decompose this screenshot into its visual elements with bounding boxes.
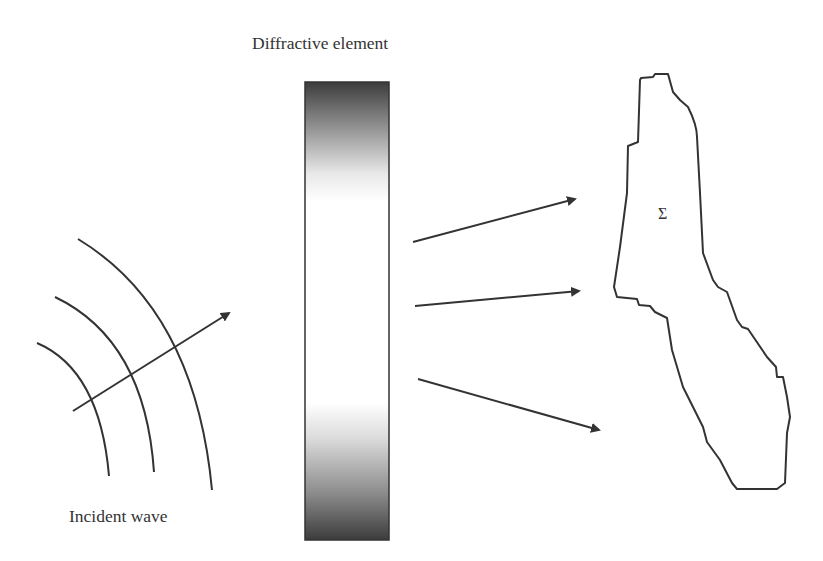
diffractive-element-label: Diffractive element: [252, 33, 388, 54]
diffracted-arrow-top: [413, 199, 575, 242]
diffracted-arrows: [413, 199, 599, 430]
diffracted-arrow-middle: [415, 291, 579, 306]
target-region-label: Σ: [658, 205, 667, 223]
incident-wave-label: Incident wave: [69, 506, 168, 527]
diffracted-arrow-bottom: [418, 379, 599, 430]
target-region-outline: [614, 74, 790, 489]
diagram-svg: [0, 0, 823, 561]
diffractive-element: [305, 82, 389, 540]
diagram-canvas: Diffractive element Incident wave Σ: [0, 0, 823, 561]
incident-wavefronts: [37, 239, 212, 490]
incident-arrow: [73, 313, 229, 411]
wavefront-inner: [37, 343, 109, 476]
wavefront-outer: [78, 239, 212, 490]
